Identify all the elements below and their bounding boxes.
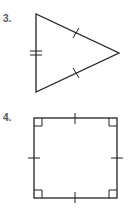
square-figure xyxy=(0,105,134,210)
triangle-figure xyxy=(0,0,134,105)
